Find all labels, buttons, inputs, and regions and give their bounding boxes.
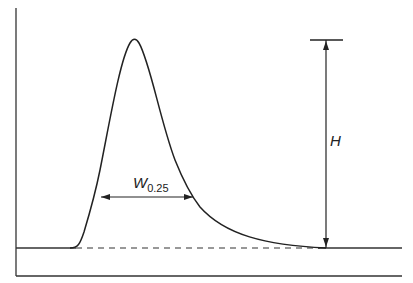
- height-label: H: [330, 132, 341, 149]
- peak-curve: [70, 39, 326, 248]
- peak-diagram: W0.25 H: [0, 0, 413, 283]
- width-arrow: [101, 194, 193, 200]
- width-label: W0.25: [133, 174, 169, 194]
